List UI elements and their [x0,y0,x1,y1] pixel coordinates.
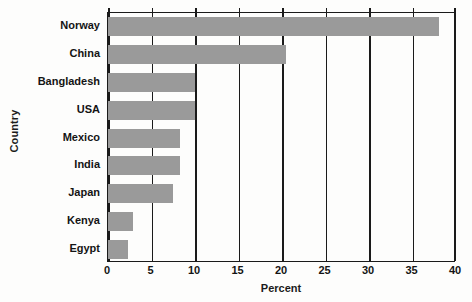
bar [108,184,173,203]
category-label: USA [77,100,100,119]
x-axis-ticklabels: 0510152025303540 [107,264,455,280]
x-tick-label: 30 [362,264,374,276]
x-tick-label: 25 [318,264,330,276]
gridline [369,8,371,261]
y-axis-title-label: Country [8,110,20,153]
plot-area [107,12,455,262]
x-tick-label: 35 [405,264,417,276]
x-tick-label: 20 [275,264,287,276]
bar [108,101,195,120]
category-label: Norway [60,16,100,35]
category-label: Mexico [63,128,100,147]
bar [108,45,286,64]
bar [108,73,195,92]
x-tick-label: 10 [188,264,200,276]
category-label: India [74,155,100,174]
gridline [413,8,415,261]
x-axis-title: Percent [107,282,455,294]
category-label: Bangladesh [38,72,100,91]
x-tick-label: 40 [449,264,461,276]
gridline [326,8,328,261]
bar [108,240,128,259]
bar [108,156,180,175]
x-tick-label: 0 [104,264,110,276]
bar [108,212,133,231]
bar-chart: Country NorwayChinaBangladeshUSAMexicoIn… [0,0,472,302]
bar [108,129,180,148]
category-label: China [69,44,100,63]
category-label: Kenya [67,211,100,230]
category-label: Egypt [69,239,100,258]
bar [108,17,439,36]
category-label: Japan [68,183,100,202]
x-tick-label: 15 [231,264,243,276]
category-axis-labels: NorwayChinaBangladeshUSAMexicoIndiaJapan… [22,12,104,262]
gridline [454,8,456,261]
x-tick-label: 5 [147,264,153,276]
